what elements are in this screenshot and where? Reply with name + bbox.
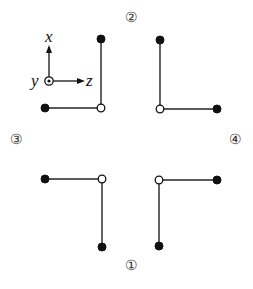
filled-node-icon xyxy=(156,36,164,44)
l-shape-top-left xyxy=(41,35,105,112)
coordinate-axes: x y z xyxy=(29,27,93,90)
z-axis-arrowhead-icon xyxy=(77,78,85,84)
l-shape-bottom-right xyxy=(155,176,221,250)
filled-node-icon xyxy=(213,105,221,113)
y-axis-label: y xyxy=(29,71,39,90)
label-option-2: ② xyxy=(125,9,138,25)
rigid-body-diagram: x y z ② ③ ④ ① xyxy=(0,0,253,289)
open-node-icon xyxy=(97,104,105,112)
l-shape-bottom-left xyxy=(41,175,106,251)
filled-node-icon xyxy=(97,35,105,43)
z-axis-label: z xyxy=(85,71,93,90)
y-axis-dot-icon xyxy=(47,79,50,82)
label-option-3: ③ xyxy=(10,131,23,147)
label-option-1: ① xyxy=(125,257,138,273)
filled-node-icon xyxy=(41,175,49,183)
filled-node-icon xyxy=(155,242,163,250)
filled-node-icon xyxy=(213,176,221,184)
x-axis-label: x xyxy=(44,27,53,46)
l-shape-top-right xyxy=(156,36,221,113)
open-node-icon xyxy=(155,176,163,184)
filled-node-icon xyxy=(41,104,49,112)
label-option-4: ④ xyxy=(229,131,242,147)
x-axis-arrowhead-icon xyxy=(46,45,52,53)
filled-node-icon xyxy=(98,243,106,251)
open-node-icon xyxy=(98,175,106,183)
open-node-icon xyxy=(156,105,164,113)
